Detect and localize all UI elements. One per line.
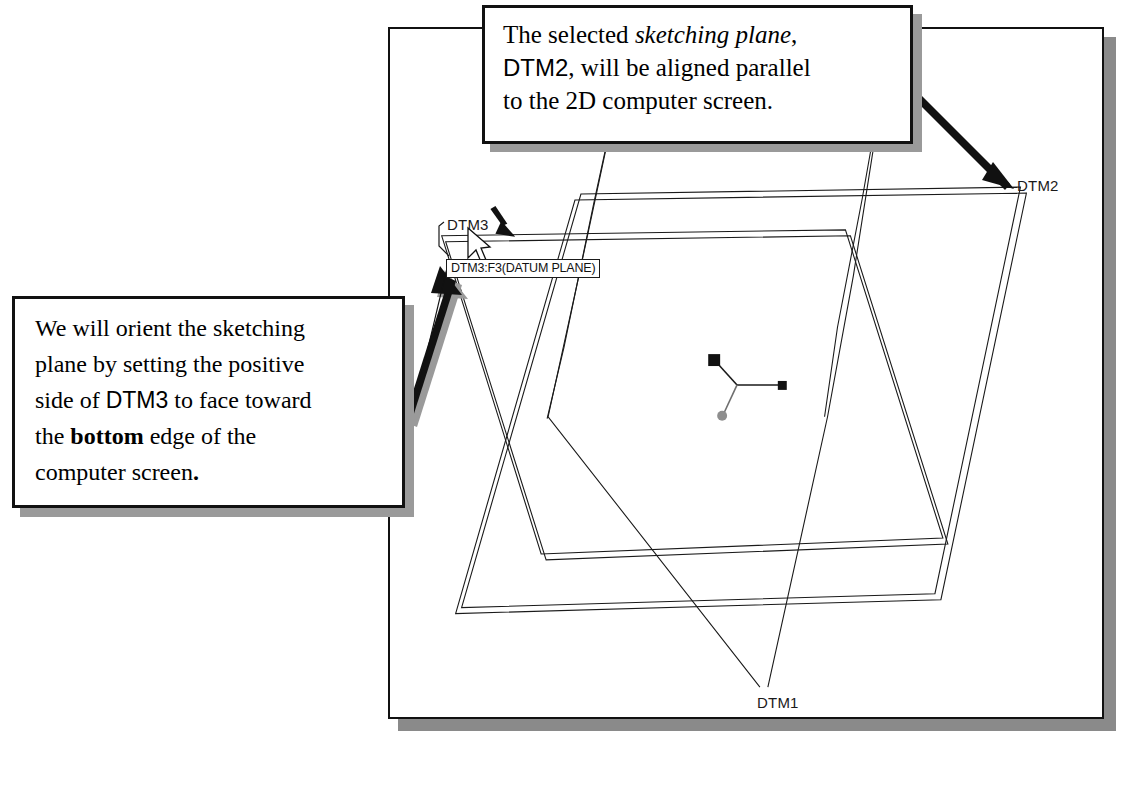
callout-left-bottom-emphasis: bottom	[70, 423, 143, 449]
positive-side-arrow	[490, 206, 515, 237]
callout-left-line-2: plane by setting the positive	[35, 346, 392, 382]
callout-top-line-1a: The selected	[503, 21, 635, 48]
callout-left-line-4: the bottom edge of the	[35, 418, 392, 454]
csys-axis-marker-z	[717, 411, 727, 421]
callout-left-line-1: We will orient the sketching	[35, 310, 392, 346]
datum-plane-dtm3-geometry	[442, 230, 948, 560]
callout-left-line-2-text: plane by setting the positive	[35, 351, 304, 377]
datum-label-dtm3[interactable]: DTM3	[447, 216, 489, 233]
callout-left-dtm3-ref: DTM3	[106, 387, 169, 413]
callout-top-line-1-emphasis: sketching plane	[635, 21, 791, 48]
callout-top-line-1: The selected sketching plane,	[503, 18, 896, 51]
datum-label-dtm2[interactable]: DTM2	[1017, 177, 1059, 194]
callout-top-line-3-text: to the 2D computer screen.	[503, 87, 773, 114]
callout-left-line-5: computer screen.	[35, 454, 392, 490]
callout-left: We will orient the sketching plane by se…	[12, 296, 405, 508]
datum-plane-dtm2-geometry	[456, 187, 1027, 614]
callout-top-line-2b: , will be aligned parallel	[568, 54, 810, 81]
callout-top-line-3: to the 2D computer screen.	[503, 84, 896, 117]
callout-left-line-5-period: .	[193, 459, 199, 485]
callout-top: The selected sketching plane, DTM2, will…	[482, 5, 913, 144]
callout-left-line-3a: side of	[35, 387, 106, 413]
figure-page: DTM2 DTM3 DTM1 DTM3:F3(DATUM PLANE) The …	[0, 0, 1133, 788]
csys-axis-marker-y	[708, 354, 720, 366]
callout-top-dtm2-ref: DTM2	[503, 54, 568, 81]
callout-left-line-3c: to face toward	[168, 387, 311, 413]
csys-axis-marker-x	[778, 381, 787, 390]
callout-left-line-1-text: We will orient the sketching	[35, 315, 305, 341]
datum-label-dtm1[interactable]: DTM1	[757, 694, 799, 711]
callout-left-line-4a: the	[35, 423, 70, 449]
csys-triad	[716, 362, 782, 413]
selection-tooltip: DTM3:F3(DATUM PLANE)	[446, 259, 600, 278]
callout-top-line-2: DTM2, will be aligned parallel	[503, 51, 896, 84]
callout-left-line-4c: edge of the	[144, 423, 257, 449]
callout-left-line-5a: computer screen	[35, 459, 193, 485]
callout-top-line-1b: ,	[791, 21, 797, 48]
callout-left-line-3: side of DTM3 to face toward	[35, 382, 392, 418]
